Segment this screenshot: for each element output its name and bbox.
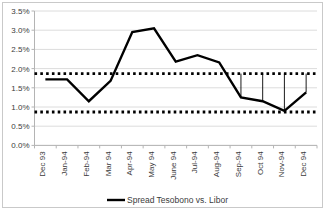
y-tick-label: 0.0%: [11, 141, 29, 150]
y-tick-label: 0.5%: [11, 122, 29, 131]
x-tick-label: Nov-94: [277, 151, 286, 177]
legend-label: Spread Tesobono vs. Libor: [127, 195, 228, 205]
chart-frame: [3, 3, 323, 208]
y-tick-label: 1.5%: [11, 84, 29, 93]
y-tick-label: 2.0%: [11, 65, 29, 74]
x-tick-label: Dec 94: [299, 151, 308, 177]
x-tick-label: Dec 93: [38, 151, 47, 177]
x-tick-label: Jan-94: [60, 151, 69, 176]
x-tick-label: Sep-94: [234, 151, 243, 177]
x-tick-label: Aug-94: [212, 151, 221, 177]
spread-line-chart: 0.0%0.5%1.0%1.5%2.0%2.5%3.0%3.5% Dec 93J…: [0, 0, 329, 213]
y-tick-label: 3.0%: [11, 26, 29, 35]
y-tick-label: 1.0%: [11, 103, 29, 112]
x-tick-label: June 94: [169, 151, 178, 180]
x-tick-label: Oct 94: [256, 151, 265, 175]
y-tick-label: 3.5%: [11, 7, 29, 16]
x-tick-label: Apr-94: [125, 151, 134, 176]
chart-container: 0.0%0.5%1.0%1.5%2.0%2.5%3.0%3.5% Dec 93J…: [0, 0, 329, 213]
x-tick-label: Jul-94: [190, 151, 199, 173]
y-tick-label: 2.5%: [11, 45, 29, 54]
x-tick-label: Feb-94: [82, 151, 91, 177]
x-tick-label: Mar 94: [104, 151, 113, 176]
x-tick-label: May 94: [147, 151, 156, 178]
